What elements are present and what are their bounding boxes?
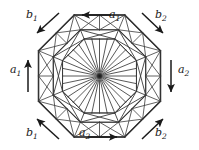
edge-label-a2-right: a2 <box>178 64 189 78</box>
label-subscript: 2 <box>86 132 91 141</box>
label-subscript: 1 <box>17 69 22 78</box>
label-base: b <box>155 126 162 139</box>
edge-label-b1-bottom-left: b1 <box>26 127 38 141</box>
edge-label-b2-top-right: b2 <box>155 9 167 23</box>
edge-label-b1-top-left: b1 <box>26 9 38 23</box>
label-base: b <box>155 8 162 21</box>
label-subscript: 1 <box>33 14 38 23</box>
label-subscript: 2 <box>162 132 167 141</box>
label-subscript: 2 <box>162 14 167 23</box>
edge-label-a1-left: a1 <box>10 64 21 78</box>
label-subscript: 1 <box>33 132 38 141</box>
label-subscript: 2 <box>185 69 190 78</box>
edge-label-a1-top: a1 <box>109 9 120 23</box>
edge-label-b2-bottom-right: b2 <box>155 127 167 141</box>
label-subscript: 1 <box>116 14 121 23</box>
label-base: b <box>26 126 33 139</box>
edge-label-a2-bottom: a2 <box>79 127 90 141</box>
label-base: b <box>26 8 33 21</box>
center-hub <box>96 72 104 80</box>
